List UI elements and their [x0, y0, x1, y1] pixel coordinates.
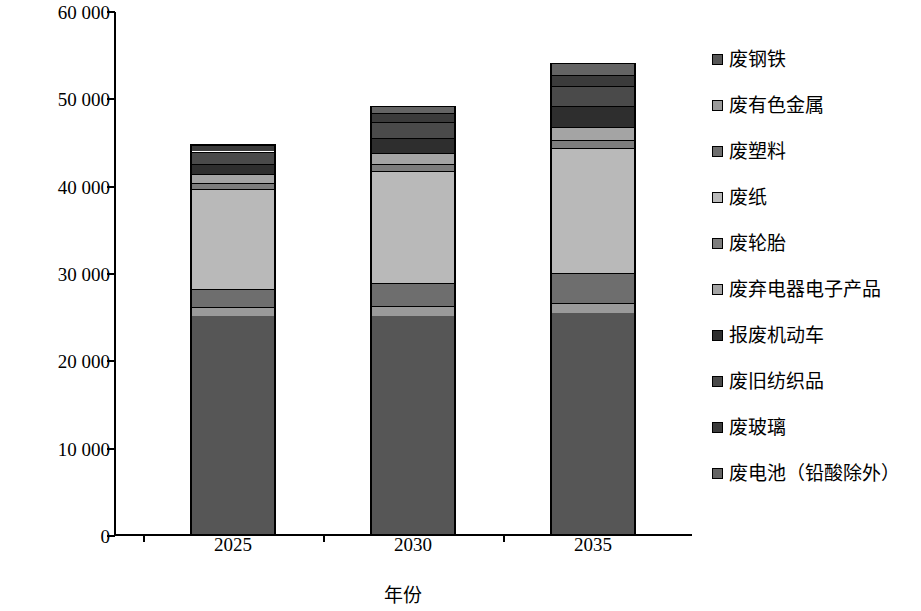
legend-item[interactable]: 废旧纺织品: [712, 358, 920, 404]
legend-swatch-icon: [712, 376, 723, 387]
y-axis-tick-mark: [107, 98, 115, 100]
x-axis-tick-label: 2035: [543, 534, 643, 556]
bar-segment: [372, 153, 454, 163]
plot-area: [114, 12, 692, 536]
bar-segment: [372, 138, 454, 154]
bar-segment: [552, 148, 634, 273]
bar-segment: [192, 145, 274, 152]
y-axis-tick-label: 20 000: [18, 352, 110, 371]
bar-segment: [372, 316, 454, 534]
legend-item-label: 废旧纺织品: [729, 372, 824, 391]
bar-segment: [552, 75, 634, 86]
legend-swatch-icon: [712, 422, 723, 433]
legend-item-label: 废电池（铅酸除外）: [729, 464, 900, 483]
bar-segment: [372, 122, 454, 138]
bar-segment: [372, 306, 454, 316]
bar-segment: [192, 183, 274, 189]
bar-segment: [192, 316, 274, 534]
legend-item[interactable]: 废钢铁: [712, 36, 920, 82]
bar-2030: [370, 106, 456, 534]
legend-item[interactable]: 废轮胎: [712, 220, 920, 266]
y-axis-tick-label: 40 000: [18, 178, 110, 197]
legend-item[interactable]: 废电池（铅酸除外）: [712, 450, 920, 496]
legend-item-label: 废塑料: [729, 142, 786, 161]
bar-segment: [192, 289, 274, 307]
bar-segment: [192, 152, 274, 164]
legend-item[interactable]: 废纸: [712, 174, 920, 220]
bar-stack: [550, 63, 636, 534]
legend-item-label: 报废机动车: [729, 326, 824, 345]
bar-segment: [552, 63, 634, 74]
x-axis-tick-label: 2030: [363, 534, 463, 556]
bar-segment: [192, 174, 274, 183]
bar-segment: [372, 283, 454, 306]
legend: 废钢铁废有色金属废塑料废纸废轮胎废弃电器电子产品报废机动车废旧纺织品废玻璃废电池…: [712, 36, 920, 496]
bar-segment: [552, 313, 634, 534]
x-axis-tick-mark: [503, 536, 505, 542]
legend-swatch-icon: [712, 468, 723, 479]
x-axis-tick-label: 2025: [183, 534, 283, 556]
legend-item-label: 废玻璃: [729, 418, 786, 437]
legend-item[interactable]: 废塑料: [712, 128, 920, 174]
x-axis-title: 年份: [114, 580, 692, 607]
bar-segment: [372, 164, 454, 171]
bar-segment: [192, 144, 274, 145]
legend-item-label: 废纸: [729, 188, 767, 207]
bar-stack: [190, 144, 276, 534]
legend-item[interactable]: 废有色金属: [712, 82, 920, 128]
bar-segment: [552, 86, 634, 106]
y-axis-tick-label: 60 000: [18, 3, 110, 22]
legend-item-label: 废轮胎: [729, 234, 786, 253]
legend-item-label: 废弃电器电子产品: [729, 280, 881, 299]
legend-swatch-icon: [712, 330, 723, 341]
y-axis-tick-labels: 010 00020 00030 00040 00050 00060 000: [18, 0, 110, 611]
bar-segment: [552, 303, 634, 313]
legend-swatch-icon: [712, 238, 723, 249]
legend-swatch-icon: [712, 54, 723, 65]
bar-segment: [552, 140, 634, 148]
y-axis-tick-label: 10 000: [18, 440, 110, 459]
y-axis-tick-label: 30 000: [18, 265, 110, 284]
legend-swatch-icon: [712, 192, 723, 203]
bar-stack: [370, 106, 456, 534]
x-axis-tick-mark: [323, 536, 325, 542]
bar-2025: [190, 144, 276, 534]
y-axis-tick-mark: [107, 360, 115, 362]
bar-segment: [552, 127, 634, 140]
legend-item[interactable]: 废玻璃: [712, 404, 920, 450]
y-axis-tick-mark: [107, 11, 115, 13]
legend-swatch-icon: [712, 100, 723, 111]
legend-item-label: 废有色金属: [729, 96, 824, 115]
bar-2035: [550, 63, 636, 534]
legend-item-label: 废钢铁: [729, 50, 786, 69]
legend-swatch-icon: [712, 284, 723, 295]
y-axis-tick-mark: [107, 186, 115, 188]
legend-item[interactable]: 报废机动车: [712, 312, 920, 358]
y-axis-tick-label: 50 000: [18, 90, 110, 109]
y-axis-tick-mark: [107, 448, 115, 450]
bar-segment: [192, 164, 274, 174]
bar-segment: [552, 106, 634, 127]
legend-swatch-icon: [712, 146, 723, 157]
bar-segment: [372, 113, 454, 122]
bar-segment: [552, 273, 634, 303]
y-axis-tick-label: 0: [18, 527, 110, 546]
bar-segment: [192, 189, 274, 289]
stacked-bar-chart: 再生资源量/万 t 010 00020 00030 00040 00050 00…: [0, 0, 921, 611]
x-axis-tick-mark: [143, 536, 145, 542]
y-axis-tick-mark: [107, 535, 115, 537]
bar-segment: [192, 307, 274, 316]
legend-item[interactable]: 废弃电器电子产品: [712, 266, 920, 312]
bar-segment: [372, 106, 454, 113]
y-axis-tick-mark: [107, 273, 115, 275]
bar-segment: [372, 171, 454, 284]
